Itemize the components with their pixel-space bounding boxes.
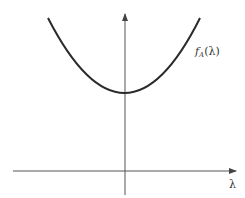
parabola-diagram: fA(λ) λ xyxy=(0,0,245,198)
parabola-curve xyxy=(48,18,200,93)
curve-label: fA(λ) xyxy=(194,45,220,59)
x-axis-label: λ xyxy=(229,178,236,191)
